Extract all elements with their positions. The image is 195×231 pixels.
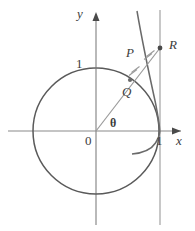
diagram-canvas: [0, 0, 195, 231]
tick-marks-segment-QP: [129, 67, 140, 76]
angle-theta-label: θ: [110, 117, 116, 129]
origin-label: 0: [85, 134, 92, 147]
x-axis-unit-label: 1: [156, 134, 163, 147]
x-axis-label: x: [176, 134, 182, 147]
math-diagram-unit-circle: y x 1 1 0 θ P Q R: [0, 0, 195, 231]
y-axis-label: y: [77, 7, 83, 20]
y-axis: [93, 12, 100, 225]
point-P-label: P: [126, 46, 134, 59]
tick-mark: [132, 67, 140, 73]
point-R-marker: [158, 46, 163, 51]
tick-mark: [129, 70, 137, 76]
tick-mark: [147, 51, 155, 57]
point-Q-label: Q: [122, 85, 131, 98]
y-axis-arrowhead: [93, 12, 100, 21]
point-R-label: R: [169, 38, 177, 51]
y-axis-unit-label: 1: [76, 57, 83, 70]
point-Q-marker: [128, 78, 132, 82]
